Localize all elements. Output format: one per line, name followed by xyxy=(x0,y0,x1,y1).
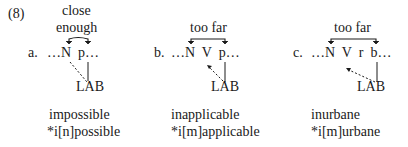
blocked-arrowhead-c xyxy=(346,68,351,72)
bracket-arrow-b xyxy=(188,39,228,44)
spreading-line-a xyxy=(70,62,87,82)
diagram-lines xyxy=(0,0,408,147)
blocked-arrowhead-b xyxy=(207,65,212,69)
bracket-arrow-c xyxy=(328,39,379,44)
bracket-arrow-a xyxy=(66,38,91,45)
blocked-spreading-line-b xyxy=(209,67,223,81)
blocked-spreading-line-c xyxy=(349,70,375,82)
